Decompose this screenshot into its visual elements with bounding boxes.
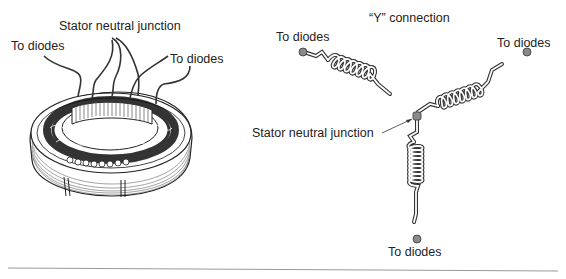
neutral-junction-node [413,112,421,120]
label-to-diodes-bottom: To diodes [388,245,442,259]
label-stator-neutral-junction-right: Stator neutral junction [252,126,374,140]
bottom-rule [8,268,558,271]
y-connection-drawing [299,48,531,243]
terminal-top-left [299,48,307,56]
label-to-diodes-right: To diodes [170,52,224,66]
label-to-diodes-top-left: To diodes [276,30,330,44]
terminal-bottom [413,235,421,243]
label-to-diodes-top-right: To diodes [497,36,551,50]
stator-illustration [30,38,192,197]
label-stator-neutral-junction-left: Stator neutral junction [59,19,181,33]
label-to-diodes-left: To diodes [11,39,65,53]
y-connection-title: “Y” connection [369,11,450,25]
